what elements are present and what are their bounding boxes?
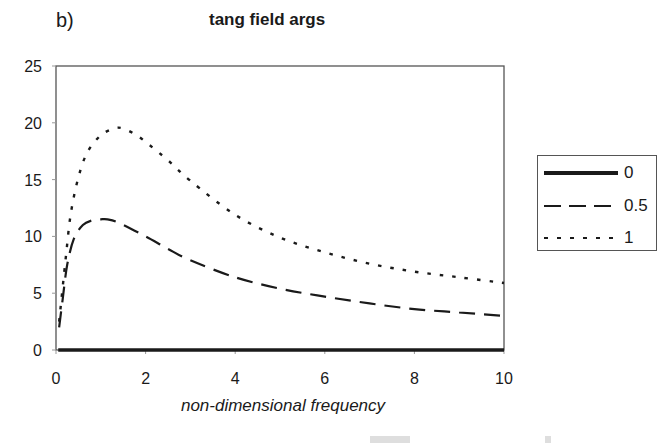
cropped-caption-fragment bbox=[545, 436, 551, 443]
y-tick-label: 15 bbox=[24, 172, 42, 189]
x-tick-label: 6 bbox=[320, 370, 329, 387]
legend-item-0.5: 0.5 bbox=[543, 196, 655, 216]
x-axis-label: non-dimensional frequency bbox=[0, 396, 560, 416]
legend-label: 0.5 bbox=[624, 196, 648, 216]
y-tick-label: 10 bbox=[24, 228, 42, 245]
x-tick-label: 8 bbox=[410, 370, 419, 387]
y-tick-label: 25 bbox=[24, 58, 42, 75]
legend-label: 0 bbox=[624, 163, 633, 183]
series-lines bbox=[58, 128, 504, 350]
y-tick-label: 5 bbox=[33, 285, 42, 302]
x-tick-label: 2 bbox=[141, 370, 150, 387]
series-line-1 bbox=[59, 128, 504, 322]
legend-item-1: 1 bbox=[543, 228, 655, 248]
x-tick-label: 0 bbox=[52, 370, 61, 387]
series-line-0.5 bbox=[59, 219, 504, 327]
legend-item-0: 0 bbox=[543, 163, 655, 183]
cropped-caption-fragment bbox=[370, 436, 410, 443]
y-tick-label: 0 bbox=[33, 342, 42, 359]
x-tick-label: 4 bbox=[231, 370, 240, 387]
x-tick-label: 10 bbox=[495, 370, 513, 387]
plot-frame bbox=[56, 66, 504, 350]
legend: 0 0.5 1 bbox=[537, 155, 657, 251]
tick-labels: 05101520250246810 bbox=[24, 58, 513, 387]
y-tick-label: 20 bbox=[24, 115, 42, 132]
legend-label: 1 bbox=[624, 228, 633, 248]
